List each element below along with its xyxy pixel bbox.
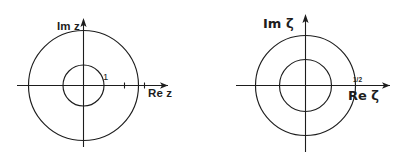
zeta-plane-imaginary-axis-label: Im ζ xyxy=(263,16,294,31)
z-plane-real-axis xyxy=(17,82,168,88)
z-plane-panel: 1 Im z Re z xyxy=(17,18,172,147)
zeta-plane-unit-label: 1/2 xyxy=(353,76,362,83)
zeta-plane-panel: 1/2 Im ζ Re ζ xyxy=(236,14,390,152)
z-plane-real-axis-label: Re z xyxy=(148,87,172,99)
z-plane-unit-label: 1 xyxy=(103,71,108,82)
figure-root: 1 Im z Re z 1/2 Im xyxy=(0,0,406,167)
z-plane-imaginary-axis xyxy=(80,18,86,147)
complex-plane-figure: 1 Im z Re z 1/2 Im xyxy=(0,0,406,167)
zeta-plane-real-axis-label: Re ζ xyxy=(348,88,379,103)
z-plane-imaginary-axis-label: Im z xyxy=(57,20,80,32)
zeta-plane-imaginary-axis xyxy=(302,14,308,152)
